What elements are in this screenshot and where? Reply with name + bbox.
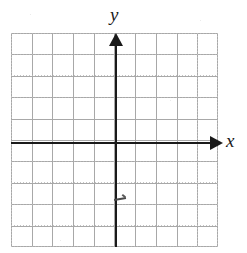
y-axis-arrow-icon [109, 33, 123, 46]
x-axis-line [11, 142, 215, 144]
paper-speckle [200, 20, 201, 21]
grid-dotted-col [11, 33, 12, 247]
paper-speckle [30, 14, 31, 15]
coordinate-plane-figure: y x [0, 0, 247, 253]
grid-dotted-col [197, 33, 198, 247]
stray-pencil-tick-mark [113, 195, 127, 202]
paper-speckle [60, 240, 61, 241]
x-axis-arrow-icon [210, 136, 223, 150]
paper-speckle [170, 100, 171, 101]
x-axis-label: x [226, 131, 234, 150]
y-axis-line [115, 38, 117, 247]
y-axis-label: y [110, 5, 118, 24]
